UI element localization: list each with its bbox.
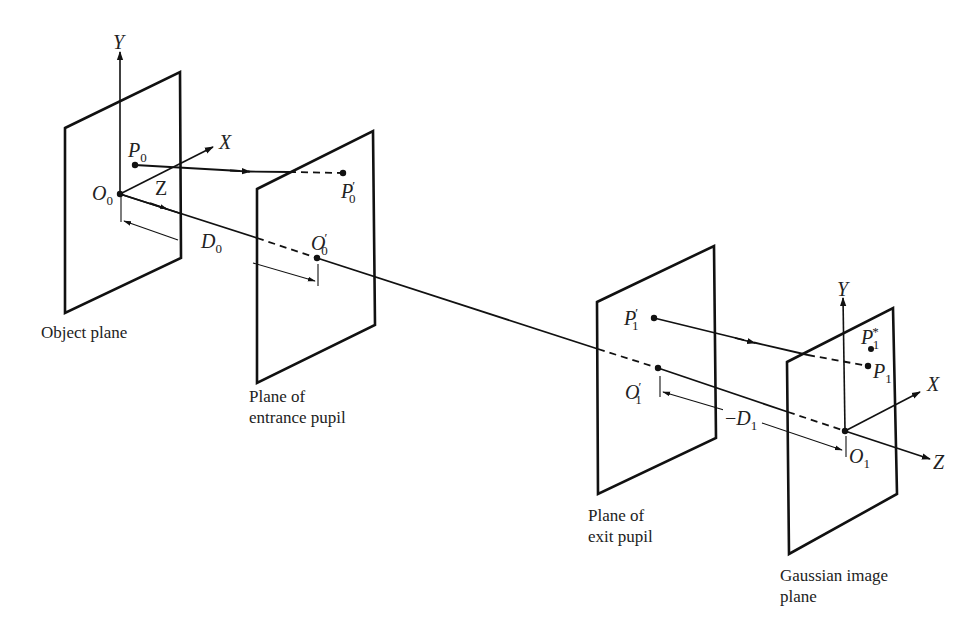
object-ray [135, 165, 240, 171]
diagram-canvas [0, 0, 979, 638]
d1-dimension-right [762, 423, 842, 450]
point-o1 [842, 428, 848, 434]
optics-diagram: Y X Z O0 P0 P′0 O′0 P′1 O′1 P*1 P1 O1 Y … [0, 0, 979, 638]
label-o1-prime: O′1 [625, 380, 642, 406]
point-p1-prime [651, 315, 657, 321]
optical-axis-seg2 [317, 258, 598, 349]
image-y-axis [843, 298, 845, 431]
label-o0-prime: O′0 [311, 231, 328, 257]
caption-gaussian-image-plane: Gaussian image plane [780, 565, 888, 608]
object-y-label: Y [113, 32, 124, 52]
image-ray-hidden [808, 355, 868, 366]
image-x-label: X [927, 374, 939, 394]
image-x-axis [845, 392, 920, 431]
d0-dimension-right [253, 263, 315, 281]
object-ray-hidden [289, 172, 343, 173]
label-d1: −D1 [723, 408, 759, 432]
object-x-label: X [219, 132, 231, 152]
image-ray [654, 318, 744, 340]
label-p1-star: P*1 [861, 325, 879, 351]
object-ray-arrow [230, 171, 250, 172]
caption-object-plane: Object plane [41, 322, 127, 343]
optical-axis-hidden-2 [598, 349, 658, 368]
point-o1-prime [655, 365, 661, 371]
point-o0 [117, 191, 123, 197]
label-p0-prime: P′0 [341, 179, 356, 205]
label-p1-prime: P′1 [624, 306, 639, 332]
label-p0: P0 [128, 140, 147, 164]
d0-dimension-left [124, 221, 178, 240]
optical-axis-seg3 [658, 368, 788, 412]
label-o1: O1 [849, 446, 870, 470]
image-y-label: Y [837, 279, 848, 299]
caption-exit-pupil: Plane of exit pupil [588, 505, 653, 548]
label-d0: D0 [199, 231, 224, 255]
image-ray-2 [754, 343, 808, 356]
image-ray-arrow [735, 338, 755, 343]
optical-axis-hidden-3 [788, 412, 845, 431]
image-z-label: Z [933, 452, 944, 472]
object-ray-2 [248, 172, 289, 173]
caption-entrance-pupil: Plane of entrance pupil [249, 386, 346, 429]
point-p0-prime [340, 170, 346, 176]
point-p1 [865, 363, 871, 369]
optical-axis-hidden-1 [257, 238, 317, 258]
label-o0: O0 [92, 183, 113, 207]
optical-axis-front [120, 194, 182, 214]
label-p1: P1 [873, 361, 892, 385]
object-z-label: Z [155, 178, 167, 198]
